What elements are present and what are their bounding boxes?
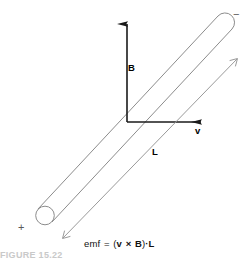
motional-emf-figure: B v L + − emf = (v × B)·L FIGURE 15.22	[0, 0, 252, 261]
velocity-label: v	[195, 126, 200, 136]
positive-charge-label: +	[18, 222, 24, 233]
l-vector	[63, 59, 238, 239]
magnetic-field-label: B	[128, 63, 135, 73]
formula-lhs: emf	[84, 238, 100, 249]
figure-caption-fragment: FIGURE 15.22	[0, 250, 80, 261]
rod-edge-upper	[38, 16, 218, 209]
emf-formula: emf = (v × B)·L	[84, 238, 155, 249]
rod-edge-lower	[52, 29, 232, 222]
rod-cap-bottom	[36, 206, 55, 225]
conducting-rod	[36, 13, 235, 225]
negative-charge-label: −	[233, 9, 239, 20]
l-vector-line	[63, 59, 237, 238]
figure-canvas	[0, 0, 252, 261]
length-vector-label: L	[152, 147, 158, 157]
formula-term-l: L	[149, 238, 155, 249]
